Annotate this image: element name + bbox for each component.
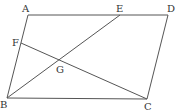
label-F: F [12, 37, 19, 48]
segment-BA [7, 15, 28, 98]
label-A: A [21, 3, 30, 14]
segment-FC [21, 43, 147, 99]
segment-DC [147, 15, 168, 99]
label-E: E [116, 3, 123, 14]
parallelogram-diagram: A E D F G B C [0, 0, 180, 111]
segment-CB [7, 98, 147, 99]
segment-BE [7, 15, 120, 98]
label-D: D [167, 3, 175, 14]
label-B: B [0, 99, 7, 110]
label-C: C [144, 101, 152, 111]
label-G: G [56, 64, 64, 75]
